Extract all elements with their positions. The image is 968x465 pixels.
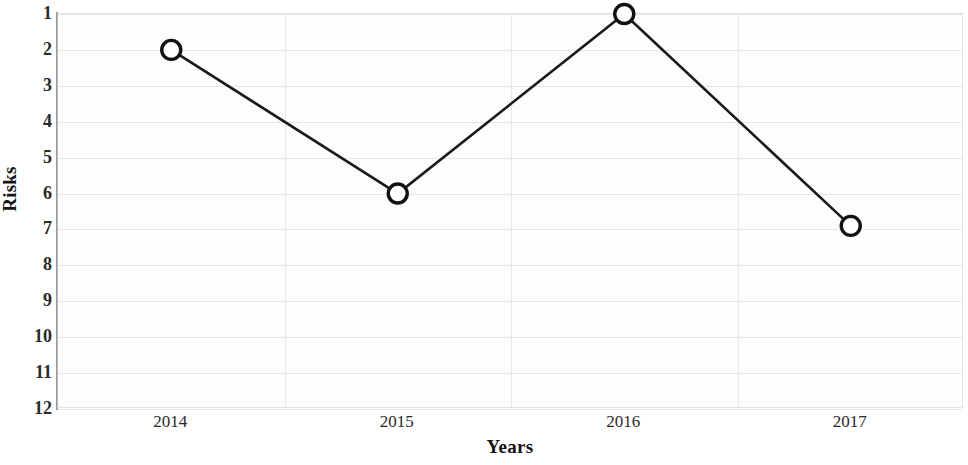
series-markers [162, 5, 861, 236]
y-tick-label: 5 [6, 148, 52, 166]
data-series-risks [58, 14, 964, 409]
x-axis-title: Years [57, 436, 963, 458]
data-point-marker [162, 40, 181, 59]
plot-area [57, 13, 963, 408]
x-tick-label: 2016 [563, 413, 683, 430]
y-tick-label: 8 [6, 255, 52, 273]
y-tick-label: 3 [6, 76, 52, 94]
y-tick-label: 1 [6, 4, 52, 22]
x-tick-label: 2015 [337, 413, 457, 430]
data-point-marker [841, 216, 860, 235]
y-tick-label: 9 [6, 291, 52, 309]
series-line [171, 14, 851, 226]
line-chart-figure: Risks 123456789101112 2014201520162017 Y… [0, 0, 968, 465]
y-axis-tick-labels: 123456789101112 [0, 0, 52, 465]
data-point-marker [615, 5, 634, 24]
y-tick-label: 12 [6, 399, 52, 417]
y-tick-label: 10 [6, 327, 52, 345]
y-tick-label: 4 [6, 112, 52, 130]
x-tick-label: 2014 [110, 413, 230, 430]
y-tick-label: 6 [6, 184, 52, 202]
y-tick-label: 2 [6, 40, 52, 58]
y-tick-label: 11 [6, 363, 52, 381]
data-point-marker [388, 184, 407, 203]
x-tick-label: 2017 [790, 413, 910, 430]
y-tick-label: 7 [6, 219, 52, 237]
horizontal-gridline [58, 409, 962, 410]
